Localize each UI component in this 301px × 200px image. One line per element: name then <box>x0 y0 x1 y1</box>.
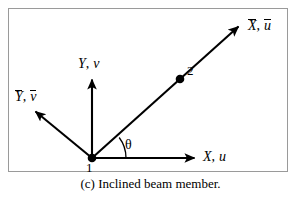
label-global-x-axis: X, u <box>203 150 226 164</box>
label-global-x-symbol: X <box>203 149 212 164</box>
label-local-y-axis: Y, v <box>15 89 37 104</box>
member-axis-local-x <box>92 27 239 159</box>
label-global-x-comma: , <box>212 149 216 164</box>
label-global-x-disp: u <box>219 149 226 164</box>
figure-root: X, u Y, v Y, v X, u θ 1 2 (c) Inclined b… <box>0 0 301 200</box>
label-local-y-comma: , <box>23 89 27 104</box>
label-local-y-disp: v <box>30 89 36 104</box>
axis-local-y <box>36 112 93 159</box>
label-local-y-symbol: Y <box>15 89 23 104</box>
label-global-y-comma: , <box>86 56 90 71</box>
node-2-marker <box>176 75 185 84</box>
label-global-y-disp: v <box>93 56 99 71</box>
label-local-x-disp: u <box>264 18 271 33</box>
label-node-1: 1 <box>86 161 93 174</box>
label-node-2: 2 <box>187 64 194 77</box>
label-local-x-axis: X, u <box>248 18 271 33</box>
label-local-x-symbol: X <box>248 18 257 33</box>
label-local-x-comma: , <box>257 18 261 33</box>
label-global-y-axis: Y, v <box>78 57 100 71</box>
label-global-y-symbol: Y <box>78 56 86 71</box>
label-angle-theta: θ <box>125 138 132 152</box>
figure-caption: (c) Inclined beam member. <box>0 176 301 192</box>
